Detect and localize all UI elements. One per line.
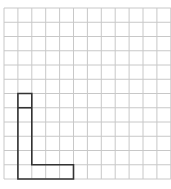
grid-diagram — [0, 0, 171, 189]
